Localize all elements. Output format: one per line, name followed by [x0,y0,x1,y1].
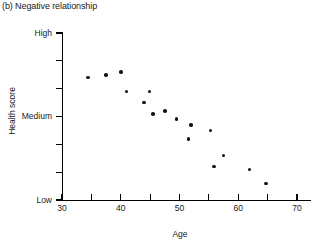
scatter-plot-figure: (b) Negative relationship LowMediumHigh … [0,0,314,245]
x-axis-tick-label: 60 [223,204,253,213]
x-axis-tick-label: 50 [165,204,195,213]
x-axis-tick-label: 70 [282,204,312,213]
data-point [86,76,90,80]
data-point [104,73,108,77]
x-axis-tick-label: 40 [106,204,136,213]
data-point [151,112,155,116]
y-axis-tick-label: Low [4,196,52,205]
y-axis-tick-label: High [4,29,52,38]
data-point [119,70,123,74]
plot-area [62,33,297,200]
data-point [163,109,167,113]
x-axis-tick-label: 30 [47,204,77,213]
y-axis-title: Health score [7,71,17,151]
data-point [189,123,193,127]
data-point [187,137,191,141]
data-point [264,182,268,186]
chart-title: (b) Negative relationship [2,1,97,11]
x-axis-title: Age [120,229,240,239]
